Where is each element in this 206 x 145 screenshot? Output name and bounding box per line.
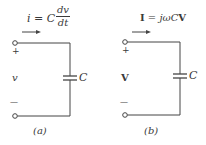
capacitor-label-b: C bbox=[189, 70, 197, 81]
top-terminal-b bbox=[123, 40, 128, 45]
minus-sign-b: — bbox=[120, 98, 128, 106]
fraction-numerator: dv bbox=[57, 5, 69, 15]
panel-a-circuit bbox=[13, 30, 77, 118]
capacitor-label-a: C bbox=[79, 72, 87, 83]
equation-a-lhs: i = C bbox=[27, 13, 55, 24]
caption-b: (b) bbox=[144, 126, 158, 136]
arrow-head-a bbox=[36, 30, 41, 34]
voltage-label-b: V bbox=[121, 73, 129, 83]
fraction-denominator: dt bbox=[58, 18, 68, 28]
plus-sign-b: + bbox=[122, 46, 130, 55]
equation-b: I = jωCV bbox=[140, 13, 186, 23]
panel-b-circuit bbox=[123, 30, 187, 117]
caption-a: (a) bbox=[33, 126, 47, 136]
bottom-terminal-a bbox=[13, 114, 18, 119]
arrow-head-b bbox=[146, 30, 151, 34]
bottom-terminal-b bbox=[123, 113, 128, 118]
voltage-label-a: v bbox=[12, 73, 18, 83]
minus-sign-a: — bbox=[10, 98, 18, 106]
phasor-voltage: V bbox=[178, 12, 186, 23]
top-terminal-a bbox=[13, 41, 18, 46]
equation-a-fraction: dv dt bbox=[56, 5, 70, 28]
equation-b-middle: = jωC bbox=[145, 12, 179, 23]
plus-sign-a: + bbox=[12, 47, 20, 56]
